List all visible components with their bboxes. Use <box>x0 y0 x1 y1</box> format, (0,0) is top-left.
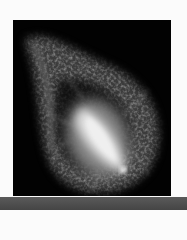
cell-illustration <box>13 20 171 196</box>
micrograph-image <box>13 20 171 196</box>
bottom-bar <box>0 197 187 210</box>
